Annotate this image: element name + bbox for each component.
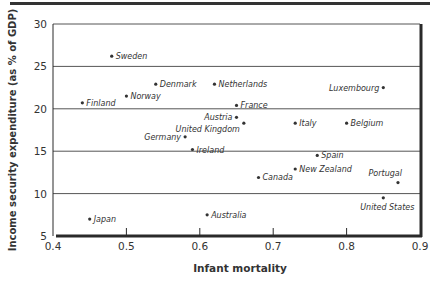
y-tick-label: 10 — [34, 188, 47, 200]
data-point — [382, 86, 385, 89]
data-point — [396, 181, 399, 184]
y-tick-label: 25 — [34, 60, 47, 72]
y-tick-label: 20 — [34, 103, 47, 115]
data-point — [110, 55, 113, 58]
x-tick-label: 0.5 — [118, 240, 135, 252]
point-label: Portugal — [369, 169, 403, 178]
x-axis-title: Infant mortality — [0, 262, 440, 274]
x-tick-label: 0.4 — [45, 240, 62, 252]
data-point — [88, 217, 91, 220]
data-point — [235, 116, 238, 119]
point-label: Japan — [92, 215, 116, 224]
data-point — [294, 122, 297, 125]
point-label: Canada — [263, 173, 294, 182]
x-tick-label: 0.8 — [338, 240, 355, 252]
y-axis-title-wrap: Income security expenditure (as % of GDP… — [0, 24, 24, 236]
point-label: Spain — [321, 151, 343, 160]
point-label: Australia — [210, 211, 246, 220]
x-tick-label: 0.7 — [265, 240, 282, 252]
data-point — [316, 154, 319, 157]
point-label: Sweden — [116, 52, 148, 61]
data-point — [81, 101, 84, 104]
data-point — [235, 104, 238, 107]
point-label: Luxembourg — [329, 84, 379, 93]
point-label: United States — [360, 203, 414, 212]
data-point — [213, 83, 216, 86]
point-label: Finland — [86, 99, 116, 108]
data-point — [154, 83, 157, 86]
data-point — [242, 122, 245, 125]
data-point — [206, 213, 209, 216]
data-point — [257, 176, 260, 179]
point-label: United Kingdom — [176, 125, 240, 134]
x-tick-label: 0.9 — [412, 240, 429, 252]
data-point — [191, 148, 194, 151]
y-tick-label: 30 — [34, 18, 47, 30]
y-axis-title: Income security expenditure (as % of GDP… — [7, 9, 18, 252]
point-label: Austria — [203, 113, 232, 122]
point-label: Netherlands — [218, 80, 267, 89]
point-label: New Zealand — [299, 165, 352, 174]
data-point — [294, 167, 297, 170]
point-label: Denmark — [160, 80, 197, 89]
data-point — [184, 135, 187, 138]
y-tick-label: 15 — [34, 145, 47, 157]
data-point — [125, 94, 128, 97]
data-point — [382, 196, 385, 199]
point-label: Belgium — [351, 119, 384, 128]
point-label: Germany — [144, 133, 181, 142]
point-label: Italy — [299, 119, 317, 128]
point-label: Norway — [130, 92, 161, 101]
x-tick-label: 0.6 — [191, 240, 208, 252]
data-point — [345, 122, 348, 125]
scatter-plot: 510152025300.40.50.60.70.80.9SwedenDenma… — [0, 0, 440, 287]
point-label: France — [241, 101, 268, 110]
point-label: Ireland — [196, 146, 225, 155]
